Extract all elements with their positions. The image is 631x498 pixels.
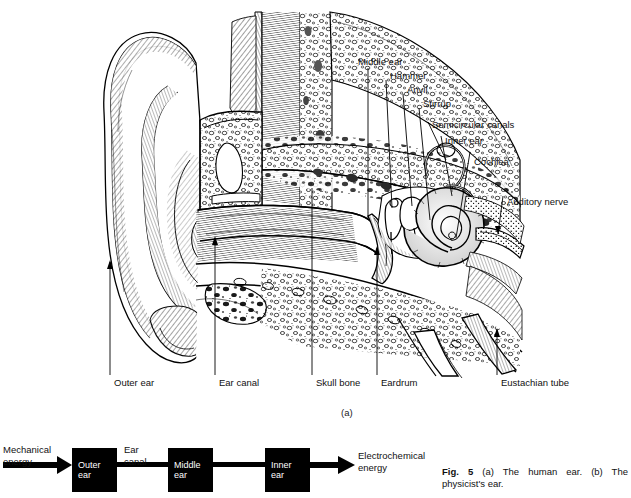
flow-input-label-line2: energy <box>3 456 32 467</box>
flow-box-middle-ear: Middle ear <box>168 448 213 492</box>
label-hammer: Hammer <box>390 70 426 81</box>
flow-box-middle-line2: ear <box>174 470 213 481</box>
panel-a-letter: (a) <box>341 407 353 418</box>
flow-input-label-line1: Mechanical <box>3 444 51 455</box>
human-ear-illustration <box>0 0 631 420</box>
figure-page: Middle ear Hammer Anvil Stirrup Semicirc… <box>0 0 631 498</box>
label-semicircular-canals: Semicircular canals <box>432 119 514 130</box>
label-skull-bone: Skull bone <box>316 377 360 388</box>
label-inner-ear: Inner ear <box>445 135 483 146</box>
flow-box-outer-line2: ear <box>78 470 117 481</box>
flow-between-label-line1: Ear <box>124 444 139 455</box>
label-stirrup: Stirrup <box>423 98 451 109</box>
flow-output-label-line2: energy <box>358 462 387 473</box>
label-eustachian-tube: Eustachian tube <box>501 377 569 388</box>
flow-box-outer-ear: Outer ear <box>72 448 117 492</box>
flow-box-inner-ear: Inner ear <box>265 448 310 492</box>
flow-box-inner-line1: Inner <box>271 460 310 471</box>
figure-caption: Fig. 5 (a) The human ear. (b) The physic… <box>442 466 628 490</box>
label-middle-ear: Middle ear <box>358 56 402 67</box>
flow-between-label-line2: canal <box>124 456 147 467</box>
flow-box-middle-line1: Middle <box>174 460 213 471</box>
output-arrow <box>310 456 355 474</box>
flow-box-inner-line2: ear <box>271 470 310 481</box>
label-outer-ear: Outer ear <box>114 377 154 388</box>
figure-caption-number: Fig. 5 <box>442 466 473 477</box>
label-anvil: Anvil <box>407 84 428 95</box>
label-auditory-nerve: Auditory nerve <box>507 196 568 207</box>
flow-output-label-line1: Electrochemical <box>358 450 425 461</box>
label-cochlea: Cochlea <box>474 156 509 167</box>
flow-box-outer-line1: Outer <box>78 460 117 471</box>
label-eardrum: Eardrum <box>381 377 417 388</box>
label-ear-canal: Ear canal <box>219 377 259 388</box>
temporal-bone-block <box>200 111 262 214</box>
connector-middle-inner <box>213 462 265 467</box>
